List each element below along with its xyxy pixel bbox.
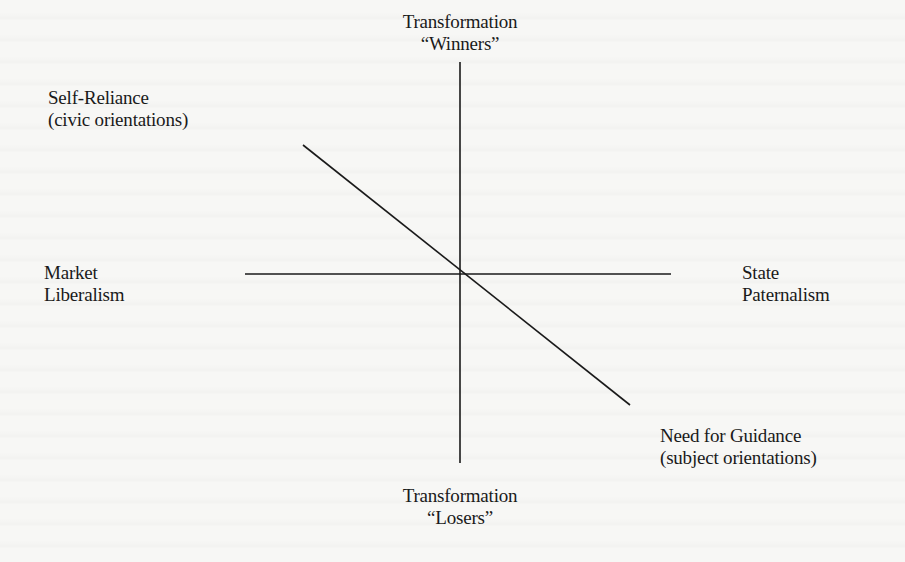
right-label-line2: Paternalism: [742, 284, 830, 306]
left-label: Market Liberalism: [44, 262, 124, 306]
lower-right-label-line1: Need for Guidance: [660, 425, 817, 447]
diagonal-line: [303, 145, 630, 405]
left-label-line1: Market: [44, 262, 124, 284]
lower-right-label: Need for Guidance (subject orientations): [660, 425, 817, 469]
top-label-line2: “Winners”: [403, 33, 518, 55]
right-label-line1: State: [742, 262, 830, 284]
upper-left-label-line1: Self-Reliance: [48, 87, 188, 109]
bottom-label-line1: Transformation: [403, 485, 518, 507]
left-label-line2: Liberalism: [44, 284, 124, 306]
upper-left-label-line2: (civic orientations): [48, 109, 188, 131]
top-label: Transformation “Winners”: [403, 11, 518, 55]
lower-right-label-line2: (subject orientations): [660, 447, 817, 469]
bottom-label: Transformation “Losers”: [403, 485, 518, 529]
right-label: State Paternalism: [742, 262, 830, 306]
upper-left-label: Self-Reliance (civic orientations): [48, 87, 188, 131]
bottom-label-line2: “Losers”: [403, 507, 518, 529]
top-label-line1: Transformation: [403, 11, 518, 33]
